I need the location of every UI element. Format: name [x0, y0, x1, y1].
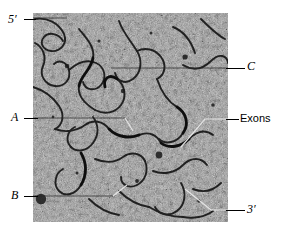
leader-line-three-prime: [226, 210, 245, 211]
leader-line-five-prime: [24, 19, 36, 20]
leader-line-exons: [226, 119, 239, 120]
label-loop-c: C: [247, 61, 255, 72]
micrograph-figure: 5′ A B C Exons 3′: [0, 0, 282, 232]
label-three-prime: 3′: [247, 204, 256, 215]
electron-micrograph-image: [33, 13, 228, 222]
leader-line-a: [24, 118, 38, 119]
label-exons: Exons: [240, 113, 271, 124]
label-five-prime: 5′: [8, 14, 17, 25]
leader-line-b: [24, 196, 38, 197]
leader-line-c: [226, 68, 245, 69]
label-loop-b: B: [11, 190, 18, 201]
label-loop-a: A: [11, 112, 18, 123]
